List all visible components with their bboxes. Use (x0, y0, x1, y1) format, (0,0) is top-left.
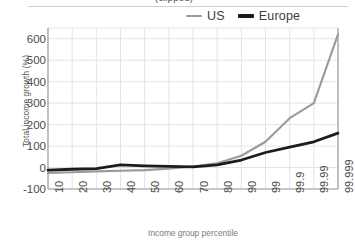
x-tick-label: 70 (198, 181, 210, 193)
x-tick-label: 90 (246, 181, 258, 193)
x-tick-label: 99.999 (343, 159, 355, 193)
x-tick-label: 50 (149, 181, 161, 193)
x-tick-label: 20 (77, 181, 89, 193)
x-tick-label: 40 (125, 181, 137, 193)
x-tick-label: 99 (270, 181, 282, 193)
x-tick-label: 10 (53, 181, 65, 193)
x-tick-label: 99.99 (318, 165, 330, 193)
x-axis-label: Income group percentile (48, 228, 338, 238)
x-tick-label: 30 (101, 181, 113, 193)
x-tick-label: 80 (222, 181, 234, 193)
x-tick-label: 99.9 (294, 172, 306, 193)
y-axis-label: Total income growth (%) (21, 26, 31, 176)
x-tick-label: 60 (173, 181, 185, 193)
